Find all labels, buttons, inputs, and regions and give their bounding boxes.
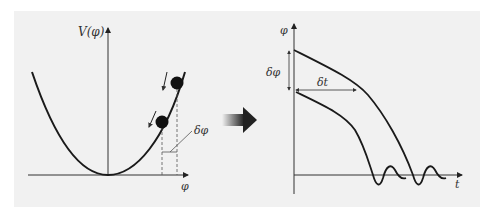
ball-upper xyxy=(171,77,184,90)
motion-arrow-lower-icon xyxy=(149,111,156,127)
y-axis-label: V(φ) xyxy=(78,25,105,39)
x-axis-label: φ xyxy=(181,180,189,193)
x-axis-label: t xyxy=(455,178,460,191)
trajectory-lower xyxy=(296,92,406,184)
motion-arrow-upper-icon xyxy=(163,72,167,90)
time-evolution-plot: φ t δφ δt xyxy=(266,24,462,194)
diagram: V(φ) φ δφ φ t δφ δt xyxy=(0,0,491,213)
delta-t-label: δt xyxy=(317,76,329,89)
potential-plot: V(φ) φ δφ xyxy=(28,25,209,193)
right-arrow-icon xyxy=(222,107,257,133)
ball-lower xyxy=(156,116,169,129)
delta-phi-label: δφ xyxy=(266,66,281,79)
delta-phi-label: δφ xyxy=(194,124,209,137)
y-axis-label: φ xyxy=(280,24,288,37)
delta-leader xyxy=(170,131,192,152)
